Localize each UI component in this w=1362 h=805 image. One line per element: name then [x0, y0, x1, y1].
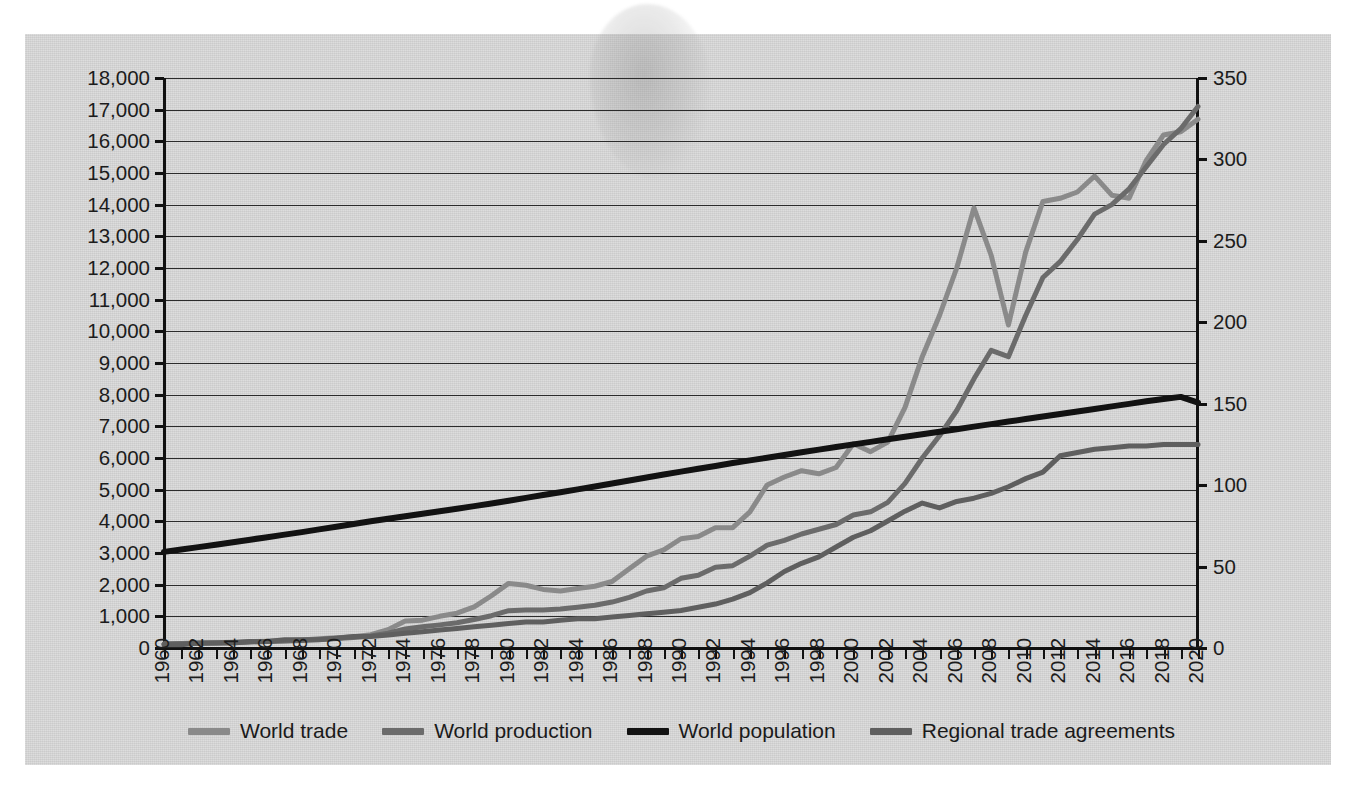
secondary-y-axis-tick-label: 50 [1213, 557, 1236, 578]
y-axis-tick-label: 14,000 [87, 195, 150, 216]
x-axis-tick-label: 2016 [1117, 638, 1138, 684]
x-axis-tick-label: 2006 [944, 638, 965, 684]
legend-color-swatch [627, 728, 669, 735]
secondary-y-axis-tick-label: 350 [1213, 68, 1247, 89]
y-axis-tick-label: 7,000 [99, 416, 150, 437]
x-axis-tick-label: 1990 [669, 638, 690, 684]
x-axis-tick-label: 1984 [565, 638, 586, 684]
y-axis-tick-label: 0 [139, 638, 150, 659]
y-axis-tick-label: 15,000 [87, 163, 150, 184]
x-axis-tick-label: 2002 [875, 638, 896, 684]
y-axis-tick-label: 3,000 [99, 543, 150, 564]
y-axis-tick-label: 16,000 [87, 131, 150, 152]
legend-color-swatch [870, 728, 912, 735]
y-axis-tick-label: 6,000 [99, 448, 150, 469]
y-axis-tick-label: 8,000 [99, 385, 150, 406]
legend-item[interactable]: World population [627, 719, 836, 743]
x-axis-tick-label: 1974 [393, 638, 414, 684]
y-axis-tick-label: 18,000 [87, 68, 150, 89]
secondary-y-axis-tick-label: 0 [1213, 638, 1224, 659]
x-axis-tick-label: 2004 [910, 638, 931, 684]
x-axis-tick-label: 2020 [1186, 638, 1207, 684]
secondary-y-axis-tick-label: 150 [1213, 394, 1247, 415]
legend-label: World population [679, 719, 836, 743]
legend-label: World production [434, 719, 592, 743]
y-axis-tick-label: 2,000 [99, 575, 150, 596]
y-axis-tick-label: 4,000 [99, 511, 150, 532]
x-axis-tick-label: 2000 [841, 638, 862, 684]
series-line-world-production [164, 107, 1198, 644]
secondary-y-axis-tick-label: 100 [1213, 475, 1247, 496]
x-axis-tick-label: 2008 [979, 638, 1000, 684]
legend-label: Regional trade agreements [922, 719, 1175, 743]
x-axis-tick-label: 1982 [531, 638, 552, 684]
y-axis-tick-label: 17,000 [87, 100, 150, 121]
axis-ticks [155, 79, 1207, 660]
chart-legend: World tradeWorld productionWorld populat… [164, 716, 1199, 746]
secondary-y-axis-tick-label: 200 [1213, 312, 1247, 333]
x-axis-tick-label: 1976 [427, 638, 448, 684]
x-axis-tick-label: 1996 [772, 638, 793, 684]
legend-item[interactable]: World trade [188, 719, 348, 743]
y-axis-tick-label: 10,000 [87, 321, 150, 342]
chart-figure: 01,0002,0003,0004,0005,0006,0007,0008,00… [0, 0, 1362, 805]
x-axis-tick-label: 1978 [462, 638, 483, 684]
x-axis-tick-label: 1994 [737, 638, 758, 684]
x-axis-tick-label: 2014 [1082, 638, 1103, 684]
secondary-y-axis-tick-label: 300 [1213, 149, 1247, 170]
x-axis-tick-label: 1966 [255, 638, 276, 684]
series-line-world-trade [164, 119, 1198, 644]
y-axis-tick-label: 5,000 [99, 480, 150, 501]
x-axis-tick-label: 1962 [186, 638, 207, 684]
x-axis-tick-label: 2010 [1013, 638, 1034, 684]
chart-plot-area [0, 0, 1362, 805]
y-axis-tick-label: 12,000 [87, 258, 150, 279]
x-axis-tick-label: 1964 [220, 638, 241, 684]
x-axis-tick-label: 1980 [496, 638, 517, 684]
x-axis-tick-label: 1970 [324, 638, 345, 684]
legend-item[interactable]: World production [382, 719, 592, 743]
y-axis-tick-label: 1,000 [99, 606, 150, 627]
x-axis-tick-label: 1960 [152, 638, 173, 684]
legend-label: World trade [240, 719, 348, 743]
x-axis-tick-label: 1988 [634, 638, 655, 684]
y-axis-tick-label: 13,000 [87, 226, 150, 247]
secondary-y-axis-tick-label: 250 [1213, 231, 1247, 252]
x-axis-tick-label: 2012 [1048, 638, 1069, 684]
x-axis-tick-label: 1998 [806, 638, 827, 684]
legend-color-swatch [382, 728, 424, 735]
y-axis-tick-label: 9,000 [99, 353, 150, 374]
legend-color-swatch [188, 728, 230, 735]
x-axis-tick-label: 1968 [289, 638, 310, 684]
legend-item[interactable]: Regional trade agreements [870, 719, 1175, 743]
x-axis-tick-label: 1986 [600, 638, 621, 684]
grid-lines [164, 79, 1198, 649]
x-axis-tick-label: 1972 [358, 638, 379, 684]
y-axis-tick-label: 11,000 [89, 290, 150, 311]
x-axis-tick-label: 1992 [703, 638, 724, 684]
x-axis-tick-label: 2018 [1151, 638, 1172, 684]
data-series [164, 107, 1198, 645]
